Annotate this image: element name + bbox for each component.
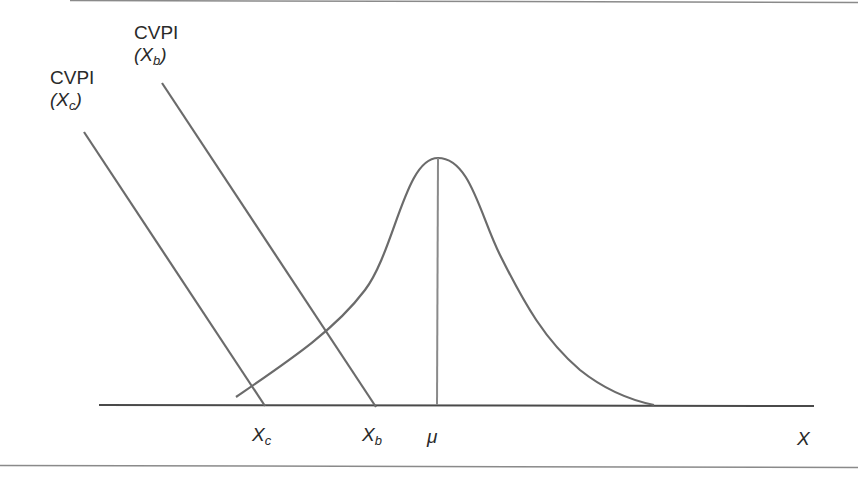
mean-line (437, 158, 438, 405)
variable: X (56, 89, 69, 110)
cvpi-diagram: CVPI (Xb) CVPI (Xc) Xc Xb μ X (0, 0, 858, 478)
x-axis-label: X (797, 428, 810, 450)
tick-label-xc: Xc (252, 424, 271, 448)
mean-symbol: μ (427, 426, 437, 447)
subscript: b (375, 433, 382, 448)
subscript: c (69, 98, 76, 113)
cvpi-xc-title: CVPI (50, 67, 94, 89)
cvpi-xc-argument: (Xc) (50, 89, 94, 113)
subscript: b (153, 53, 160, 68)
diagram-canvas (0, 0, 858, 478)
cvpi-xb-argument: (Xb) (134, 44, 178, 68)
tick-label-xb: Xb (362, 424, 382, 448)
variable: X (252, 424, 265, 445)
cvpi-xb-title: CVPI (134, 22, 178, 44)
normal-distribution-curve (236, 158, 654, 405)
cvpi-xc-line (84, 132, 265, 406)
subscript: c (265, 433, 272, 448)
variable: X (140, 44, 153, 65)
cvpi-xb-label: CVPI (Xb) (134, 22, 178, 68)
paren-close: ) (76, 89, 82, 110)
cvpi-xc-label: CVPI (Xc) (50, 67, 94, 113)
tick-label-mu: μ (427, 426, 437, 448)
top-border-rule (70, 1, 858, 3)
bottom-border-rule (0, 466, 858, 468)
variable: X (362, 424, 375, 445)
cvpi-xb-line (162, 83, 376, 407)
paren-close: ) (160, 44, 166, 65)
x-axis (99, 405, 814, 406)
